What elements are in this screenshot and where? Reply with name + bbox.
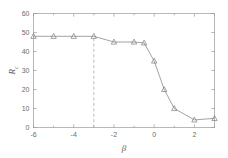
y-tick-label-6: 60 [22,10,30,17]
x-axis-title: β [121,143,127,153]
series-marker-0-5 [131,39,136,44]
y-tick-label-2: 20 [22,86,30,93]
x-tick-label-4: 2 [192,131,196,138]
x-tick-label-2: -2 [111,131,117,138]
x-tick-label-1: -4 [71,131,77,138]
figure-container: -6-4-2020102030405060βRc [0,0,228,158]
y-axis-title-subscript: c [13,66,19,69]
series-marker-0-1 [51,33,56,38]
series-marker-0-2 [71,33,76,38]
y-tick-label-3: 30 [22,67,30,74]
x-tick-label-0: -6 [30,131,36,138]
y-tick-label-1: 10 [22,105,30,112]
chart-plot: -6-4-2020102030405060βRc [0,0,228,158]
y-tick-label-0: 0 [26,124,30,131]
series-marker-0-3 [91,33,96,38]
y-axis-title: Rc [7,66,19,76]
y-tick-label-4: 40 [22,48,30,55]
series-line-0 [34,36,215,120]
axes-frame [34,14,215,128]
y-axis-title-group: Rc [7,66,19,76]
x-tick-label-3: 0 [152,131,156,138]
y-tick-label-5: 50 [22,29,30,36]
